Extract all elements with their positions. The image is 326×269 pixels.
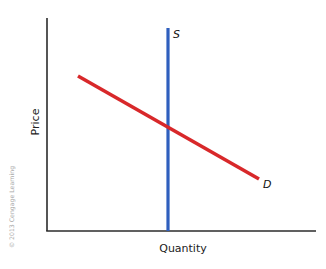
demand-label: D xyxy=(263,178,271,191)
x-axis-label: Quantity xyxy=(159,242,207,255)
copyright-notice: © 2013 Cengage Learning xyxy=(8,166,16,248)
supply-label: S xyxy=(173,28,180,41)
supply-demand-chart: S D Quantity Price © 2013 Cengage Learni… xyxy=(0,0,326,269)
y-axis-label: Price xyxy=(29,108,42,135)
